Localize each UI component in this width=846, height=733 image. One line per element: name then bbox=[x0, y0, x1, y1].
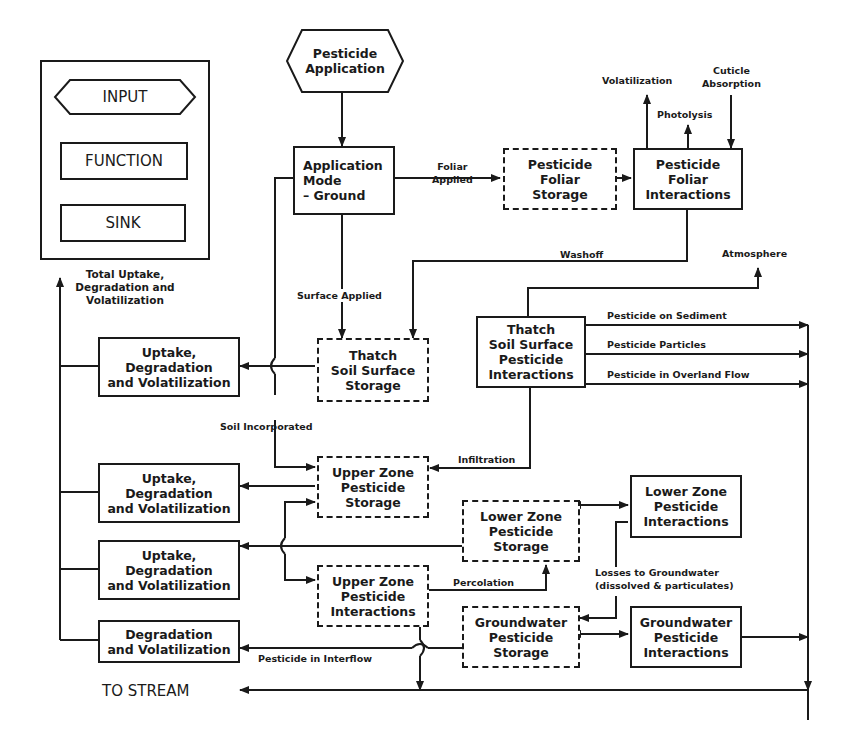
node-degradation: Degradation and Volatilization bbox=[98, 620, 240, 663]
node-thatch-storage: Thatch Soil Surface Storage bbox=[317, 338, 429, 402]
node-pesticide-application: Pesticide Application bbox=[287, 30, 403, 92]
legend-function: FUNCTION bbox=[60, 142, 188, 180]
label-infiltration: Infiltration bbox=[458, 453, 515, 466]
label-atmosphere: Atmosphere bbox=[722, 247, 787, 260]
node-upper-interactions: Upper Zone Pesticide Interactions bbox=[317, 565, 429, 627]
label-pesticide-particles: Pesticide Particles bbox=[607, 338, 706, 351]
node-lower-storage: Lower Zone Pesticide Storage bbox=[462, 500, 580, 562]
node-thatch-interactions: Thatch Soil Surface Pesticide Interactio… bbox=[476, 316, 586, 388]
label-to-stream: TO STREAM bbox=[102, 682, 190, 700]
label-foliar-applied: Foliar Applied bbox=[432, 160, 473, 186]
node-foliar-interactions: Pesticide Foliar Interactions bbox=[633, 148, 743, 210]
label-cuticle-absorption: Cuticle Absorption bbox=[702, 64, 761, 90]
node-uptake-1: Uptake, Degradation and Volatilization bbox=[98, 337, 240, 397]
label-total-uptake: Total Uptake, Degradation and Volatiliza… bbox=[60, 268, 190, 307]
label-soil-incorporated: Soil Incorporated bbox=[220, 420, 313, 433]
label-surface-applied: Surface Applied bbox=[297, 289, 382, 302]
node-gw-interactions: Groundwater Pesticide Interactions bbox=[630, 606, 742, 668]
node-gw-storage: Groundwater Pesticide Storage bbox=[462, 606, 580, 668]
label-pesticide-interflow: Pesticide in Interflow bbox=[258, 652, 372, 665]
node-uptake-2: Uptake, Degradation and Volatilization bbox=[98, 463, 240, 523]
node-upper-storage: Upper Zone Pesticide Storage bbox=[317, 456, 429, 518]
legend-sink: SINK bbox=[60, 204, 186, 242]
label-pesticide-overland: Pesticide in Overland Flow bbox=[607, 368, 750, 381]
label-losses-to-groundwater: Losses to Groundwater (dissolved & parti… bbox=[595, 566, 734, 592]
node-application-mode: Application Mode – Ground bbox=[293, 146, 395, 215]
label-washoff: Washoff bbox=[560, 248, 603, 261]
node-foliar-storage: Pesticide Foliar Storage bbox=[503, 148, 617, 210]
label-percolation: Percolation bbox=[453, 576, 514, 589]
legend-input: INPUT bbox=[55, 80, 195, 114]
label-volatilization: Volatilization bbox=[602, 74, 672, 87]
node-lower-interactions: Lower Zone Pesticide Interactions bbox=[630, 475, 742, 538]
label-photolysis: Photolysis bbox=[657, 108, 712, 121]
label-pesticide-on-sediment: Pesticide on Sediment bbox=[607, 309, 727, 322]
node-uptake-3: Uptake, Degradation and Volatilization bbox=[98, 540, 240, 600]
